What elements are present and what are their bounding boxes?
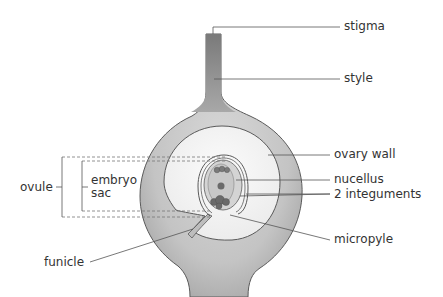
label-nucellus: nucellus bbox=[334, 173, 384, 186]
label-ovary-wall: ovary wall bbox=[334, 148, 395, 161]
label-embryo-sac-line2: sac bbox=[91, 187, 111, 200]
label-style: style bbox=[344, 72, 373, 85]
label-stigma: stigma bbox=[344, 20, 385, 33]
label-micropyle: micropyle bbox=[334, 233, 393, 246]
style bbox=[191, 34, 236, 112]
label-integuments: 2 integuments bbox=[334, 188, 421, 201]
label-ovule: ovule bbox=[20, 181, 53, 194]
label-funicle: funicle bbox=[44, 256, 84, 269]
central-nucleus bbox=[218, 183, 225, 190]
bracket-lines bbox=[56, 157, 88, 217]
antipodal-cells bbox=[214, 166, 229, 173]
